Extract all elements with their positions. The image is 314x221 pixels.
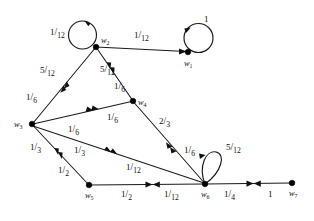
node-w3 xyxy=(29,121,35,127)
weight-w2-w4-b: 1/6 xyxy=(114,81,125,94)
weight-w4-w6-a: 2/3 xyxy=(159,116,170,129)
arrowhead-icon xyxy=(58,152,63,159)
weight-w2-w3-a: 5/12 xyxy=(40,65,55,78)
weight-loop-w2: 1/12 xyxy=(50,27,65,40)
weight-w3-w5-b: 1/2 xyxy=(58,165,69,178)
node-w7 xyxy=(289,180,295,186)
graph-canvas: w1 w2 w3 w4 w5 w6 w7 1 xyxy=(0,0,314,221)
weight-w2-w1: 1/12 xyxy=(134,30,149,43)
weight-w2-w3-b: 1/6 xyxy=(26,92,37,105)
weight-loop-w1: 1 xyxy=(204,14,209,24)
weight-w3-w4-a: 1/6 xyxy=(68,124,79,137)
node-label-w1: w1 xyxy=(184,59,193,69)
node-label-w2: w2 xyxy=(101,36,110,46)
arrowhead-icon xyxy=(254,181,261,187)
weight-label-group: 1 1/12 5/12 1/12 5/12 1/6 5/12 xyxy=(26,14,273,202)
arrowhead-icon xyxy=(54,148,59,155)
weight-w3-w6-a: 1/3 xyxy=(74,145,85,158)
weight-w5-w6-a: 1/2 xyxy=(121,189,132,202)
node-w5 xyxy=(86,182,92,188)
node-label-w4: w4 xyxy=(138,98,147,108)
self-loop-w6 xyxy=(199,152,221,184)
self-loop-w1 xyxy=(184,24,213,53)
edge-w6-w7 xyxy=(205,181,291,187)
weight-loop-w6: 5/12 xyxy=(226,142,241,155)
weight-w4-w6-b: 1/6 xyxy=(184,145,195,158)
arrowhead-icon xyxy=(146,181,153,187)
arrowhead-icon xyxy=(199,154,206,159)
node-w1 xyxy=(185,49,191,55)
arrowhead-icon xyxy=(153,181,160,187)
weight-w6-w7-a: 1/4 xyxy=(224,189,235,202)
node-label-w3: w3 xyxy=(14,120,23,130)
node-label-w7: w7 xyxy=(289,189,298,199)
self-loop-w2 xyxy=(69,21,97,49)
weight-w3-w5-a: 1/3 xyxy=(30,142,41,155)
edge-w5-w6 xyxy=(89,181,204,187)
weight-w6-w7-b: 1 xyxy=(268,189,273,199)
edge-w4-w6 xyxy=(134,103,204,183)
edge-w2-w1 xyxy=(96,47,187,55)
node-label-w5: w5 xyxy=(85,191,94,201)
node-label-w6: w6 xyxy=(201,190,210,200)
weight-w3-w6-b: 1/12 xyxy=(126,162,141,175)
arrowhead-icon xyxy=(247,181,254,187)
node-w2 xyxy=(93,44,99,50)
weight-w2-w4-a: 5/12 xyxy=(100,64,115,77)
graph-figure: w1 w2 w3 w4 w5 w6 w7 1 xyxy=(0,0,314,221)
node-w4 xyxy=(130,98,136,104)
node-w6 xyxy=(202,181,208,187)
weight-w3-w4-b: 1/6 xyxy=(107,112,118,125)
weight-w5-w6-b: 1/12 xyxy=(164,189,179,202)
